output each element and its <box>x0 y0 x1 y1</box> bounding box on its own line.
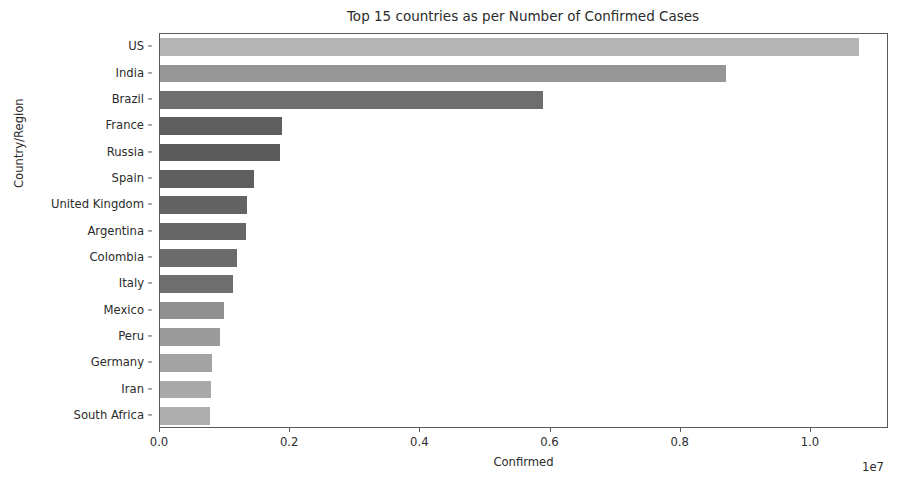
bar-us <box>160 38 859 56</box>
x-tick-label: 0.8 <box>670 435 688 449</box>
bar-mexico <box>160 302 224 320</box>
bar-row <box>160 354 887 372</box>
y-tick-label-peru: Peru <box>118 329 144 343</box>
bar-south-africa <box>160 407 210 425</box>
x-tick-label: 0.2 <box>280 435 298 449</box>
x-tick-mark <box>159 428 160 432</box>
bar-row <box>160 223 887 241</box>
plot-area <box>159 33 888 428</box>
x-tick-mark <box>810 428 811 432</box>
y-tick-label-mexico: Mexico <box>104 303 144 317</box>
y-tick-label-us: US <box>128 39 144 53</box>
bar-row <box>160 144 887 162</box>
x-tick-label: 0.6 <box>540 435 558 449</box>
y-tick-mark <box>148 125 152 126</box>
y-tick-mark <box>148 177 152 178</box>
bar-row <box>160 407 887 425</box>
y-axis-tick-labels: USIndiaBrazilFranceRussiaSpainUnited Kin… <box>0 33 152 428</box>
x-axis-label: Confirmed <box>159 455 888 469</box>
bar-argentina <box>160 223 246 241</box>
y-tick-label-south-africa: South Africa <box>74 408 144 422</box>
x-tick-mark <box>680 428 681 432</box>
bar-italy <box>160 275 233 293</box>
bar-series <box>160 34 887 427</box>
bar-brazil <box>160 91 543 109</box>
bar-row <box>160 117 887 135</box>
y-tick-label-russia: Russia <box>107 145 144 159</box>
y-tick-mark <box>148 204 152 205</box>
bar-row <box>160 381 887 399</box>
x-axis-exponent-label: 1e7 <box>862 460 884 474</box>
y-tick-label-india: India <box>116 66 144 80</box>
x-tick-label: 0.4 <box>410 435 428 449</box>
y-tick-mark <box>148 72 152 73</box>
bar-row <box>160 170 887 188</box>
y-tick-label-iran: Iran <box>121 382 144 396</box>
x-tick-label: 0.0 <box>150 435 168 449</box>
bar-row <box>160 91 887 109</box>
y-tick-label-brazil: Brazil <box>112 92 144 106</box>
y-tick-label-italy: Italy <box>119 276 144 290</box>
bar-iran <box>160 381 211 399</box>
bar-row <box>160 38 887 56</box>
y-tick-label-france: France <box>105 118 144 132</box>
chart-figure: Top 15 countries as per Number of Confir… <box>0 0 910 492</box>
bar-india <box>160 65 726 83</box>
x-tick-mark <box>419 428 420 432</box>
bar-row <box>160 275 887 293</box>
bar-row <box>160 65 887 83</box>
bar-russia <box>160 144 280 162</box>
x-tick-label: 1.0 <box>801 435 819 449</box>
y-tick-mark <box>148 230 152 231</box>
chart-title: Top 15 countries as per Number of Confir… <box>158 8 888 24</box>
bar-france <box>160 117 282 135</box>
bar-spain <box>160 170 254 188</box>
y-tick-mark <box>148 256 152 257</box>
y-tick-mark <box>148 98 152 99</box>
y-tick-mark <box>148 151 152 152</box>
y-tick-label-colombia: Colombia <box>90 250 144 264</box>
y-tick-label-germany: Germany <box>91 355 144 369</box>
bar-united-kingdom <box>160 196 247 214</box>
bar-row <box>160 196 887 214</box>
y-tick-mark <box>148 309 152 310</box>
bar-germany <box>160 354 212 372</box>
x-tick-mark <box>289 428 290 432</box>
x-tick-mark <box>550 428 551 432</box>
y-tick-label-argentina: Argentina <box>87 224 144 238</box>
y-tick-mark <box>148 388 152 389</box>
y-tick-mark <box>148 414 152 415</box>
y-tick-mark <box>148 46 152 47</box>
y-tick-label-united-kingdom: United Kingdom <box>51 197 144 211</box>
y-tick-mark <box>148 283 152 284</box>
y-tick-mark <box>148 335 152 336</box>
bar-peru <box>160 328 220 346</box>
y-tick-mark <box>148 362 152 363</box>
bar-row <box>160 328 887 346</box>
y-tick-label-spain: Spain <box>112 171 144 185</box>
bar-row <box>160 302 887 320</box>
bar-colombia <box>160 249 237 267</box>
bar-row <box>160 249 887 267</box>
